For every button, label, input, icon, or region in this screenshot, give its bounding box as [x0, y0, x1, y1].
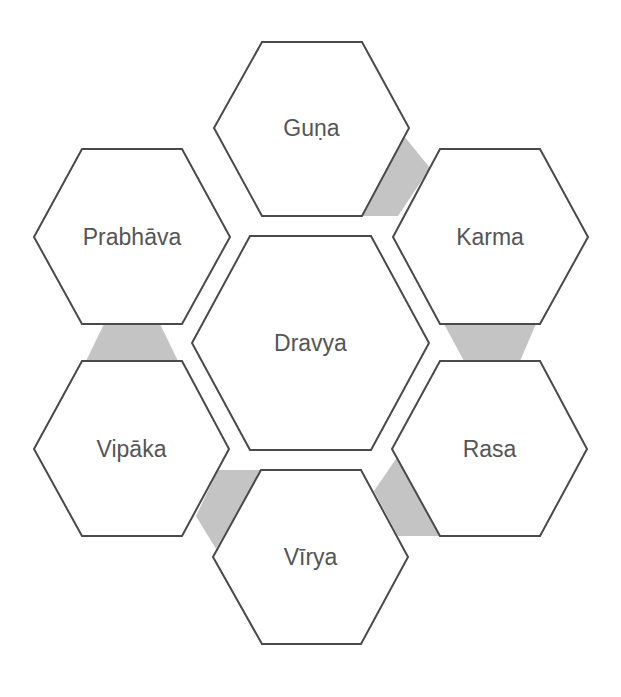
label-prabhava: Prabhāva [83, 224, 182, 250]
node-dravya: Dravya [192, 236, 429, 450]
label-vipaka: Vipāka [97, 436, 167, 462]
label-dravya: Dravya [274, 330, 347, 356]
label-rasa: Rasa [463, 436, 517, 462]
node-prabhava: Prabhāva [34, 149, 230, 324]
label-virya: Vīrya [284, 544, 338, 570]
label-karma: Karma [456, 224, 524, 250]
label-guna: Guṇa [283, 115, 339, 141]
hexagon-diagram: Guṇa Karma Rasa Vīrya Vipāka Prabhāva Dr… [0, 0, 621, 697]
connector-vipaka-prabhava [86, 324, 178, 361]
connector-karma-rasa [444, 324, 536, 361]
